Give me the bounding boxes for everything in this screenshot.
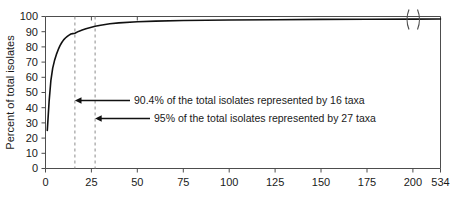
y-tick-label-30: 30	[26, 117, 38, 129]
x-axis-ticks	[46, 169, 441, 173]
y-axis-ticks	[42, 17, 46, 169]
y-tick-label-20: 20	[26, 132, 38, 144]
y-tick-label-80: 80	[26, 41, 38, 53]
x-tick-label-25: 25	[85, 176, 97, 188]
annotation-95-arrow-head	[95, 115, 102, 121]
x-tick-label-100: 100	[220, 176, 238, 188]
x-tick-label-125: 125	[266, 176, 284, 188]
y-tick-label-0: 0	[32, 162, 38, 174]
y-tick-label-70: 70	[26, 56, 38, 68]
x-tick-label-200: 200	[404, 176, 422, 188]
annotation-90-arrow-head	[75, 97, 82, 103]
y-tick-label-10: 10	[26, 147, 38, 159]
x-axis-ticks-top	[91, 17, 137, 21]
y-tick-label-50: 50	[26, 86, 38, 98]
y-tick-label-40: 40	[26, 102, 38, 114]
x-axis-tick-labels: 0 25 50 75 100 125 150 175 200 534	[42, 176, 449, 188]
chart-container: 0 10 20 30 40 50 60 70 80 90 100 Percent…	[0, 0, 463, 213]
y-tick-label-100: 100	[20, 10, 38, 22]
plot-frame	[46, 17, 441, 169]
y-axis-tick-labels: 0 10 20 30 40 50 60 70 80 90 100	[20, 10, 38, 174]
x-tick-label-0: 0	[42, 176, 48, 188]
annotation-95-percent-group: 95% of the total isolates represented by…	[95, 112, 376, 124]
x-tick-label-75: 75	[177, 176, 189, 188]
x-tick-label-150: 150	[312, 176, 330, 188]
annotation-95-label: 95% of the total isolates represented by…	[154, 112, 376, 124]
x-tick-label-50: 50	[131, 176, 143, 188]
x-tick-label-534: 534	[431, 176, 449, 188]
cumulative-percent-line-chart: 0 10 20 30 40 50 60 70 80 90 100 Percent…	[0, 0, 463, 213]
y-axis-title: Percent of total isolates	[4, 35, 16, 150]
annotation-90-label: 90.4% of the total isolates represented …	[134, 94, 365, 106]
x-tick-label-175: 175	[358, 176, 376, 188]
reference-lines	[75, 17, 95, 169]
annotation-90-percent-group: 90.4% of the total isolates represented …	[75, 94, 365, 106]
y-tick-label-90: 90	[26, 26, 38, 38]
y-tick-label-60: 60	[26, 71, 38, 83]
